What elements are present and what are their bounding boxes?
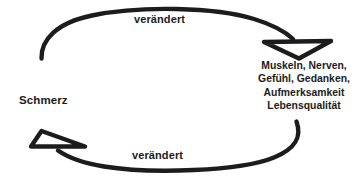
diagram-canvas: verändert verändert Schmerz Muskeln, Ner… bbox=[0, 0, 364, 180]
bottom-arc-stroke bbox=[58, 122, 298, 171]
node-label-pain: Schmerz bbox=[19, 95, 68, 107]
node-effects-line-2: Gefühl, Gedanken, bbox=[244, 72, 364, 85]
top-arrowhead bbox=[264, 41, 331, 59]
node-effects-line-3: Aufmerksamkeit bbox=[244, 86, 364, 99]
arrow-pain-to-effects bbox=[41, 9, 331, 59]
bottom-arrowhead bbox=[31, 131, 85, 147]
node-label-effects: Muskeln, Nerven, Gefühl, Gedanken, Aufme… bbox=[244, 59, 364, 113]
node-effects-line-4: Lebensqualität bbox=[244, 99, 364, 112]
node-effects-line-1: Muskeln, Nerven, bbox=[244, 59, 364, 72]
edge-label-top: verändert bbox=[134, 14, 185, 25]
arrow-effects-to-pain bbox=[31, 122, 298, 171]
edge-label-bottom: verändert bbox=[132, 150, 183, 161]
